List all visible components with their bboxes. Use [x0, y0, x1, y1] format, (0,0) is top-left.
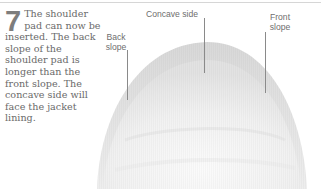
label-back-slope: Back slope [103, 32, 129, 52]
leader-back-slope [127, 50, 128, 100]
leader-concave-side [204, 18, 205, 73]
label-concave-side: Concave side [143, 9, 201, 19]
shoulder-pad-figure: Back slope Concave side Front slope [95, 0, 321, 189]
step-instruction: 7 The shoulder pad can now be inserted. … [5, 8, 105, 124]
leader-front-slope [265, 32, 266, 93]
label-front-slope: Front slope [266, 12, 294, 32]
step-number: 7 [5, 8, 21, 32]
